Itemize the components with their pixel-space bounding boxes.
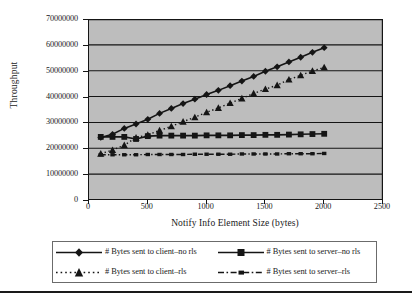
x-axis-tick-label: 500 [141, 203, 153, 211]
data-marker-triangle [179, 118, 186, 125]
plot-svg [89, 19, 383, 200]
data-marker-square [239, 132, 245, 138]
y-axis-tick-mark [83, 148, 88, 149]
legend-item-server-no-rls[interactable]: # Bytes sent to server–no rls [215, 246, 377, 259]
data-marker-diamond [286, 59, 293, 66]
data-marker-square [204, 132, 210, 138]
data-marker-square [286, 132, 292, 138]
data-marker-square [263, 132, 269, 138]
data-marker-diamond [238, 78, 245, 85]
data-marker-small-square [240, 152, 244, 155]
y-axis-tick-label: 50000000 [46, 67, 78, 75]
data-marker-small-square [228, 153, 232, 156]
x-axis-tick-label: 1500 [256, 203, 272, 211]
legend-sample-diamond-icon [56, 246, 102, 259]
legend-sample-triangle-icon [56, 266, 102, 279]
data-marker-small-square [99, 153, 103, 156]
chart-figure: Throughput 01000000020000000300000004000… [0, 0, 412, 303]
y-axis-tick-label: 70000000 [46, 15, 78, 23]
x-axis-tick-label: 2500 [374, 203, 390, 211]
data-marker-square [274, 132, 280, 138]
series-1 [98, 131, 327, 142]
y-axis-tick-mark [83, 19, 88, 20]
data-marker-square [298, 131, 304, 137]
legend-sample-dashdot-icon [218, 266, 264, 279]
legend-item-client-no-rls[interactable]: # Bytes sent to client–no rls [53, 246, 215, 259]
legend-item-client-rls[interactable]: # Bytes sent to client–rls [53, 266, 215, 279]
data-marker-diamond [262, 68, 269, 75]
data-marker-small-square [322, 152, 326, 155]
bottom-divider [0, 291, 412, 293]
series-0 [97, 44, 327, 141]
data-marker-small-square [122, 153, 126, 156]
data-marker-diamond [156, 110, 163, 117]
data-marker-small-square [110, 153, 114, 156]
x-axis-tick-mark [264, 200, 265, 204]
data-marker-small-square [310, 152, 314, 155]
chart-legend: # Bytes sent to client–no rls # Bytes se… [52, 241, 377, 283]
data-marker-small-square [181, 153, 185, 156]
x-axis-tick-label: 2000 [315, 203, 331, 211]
data-marker-diamond [180, 100, 187, 107]
data-marker-diamond [227, 82, 234, 89]
data-marker-triangle [262, 85, 269, 92]
data-marker-diamond [133, 121, 140, 128]
data-marker-diamond [250, 73, 257, 80]
data-marker-small-square [169, 153, 173, 156]
data-marker-square [121, 134, 127, 140]
data-marker-triangle [227, 99, 234, 106]
y-axis-tick-label: 40000000 [46, 92, 78, 100]
y-axis-tick-label: 10000000 [46, 170, 78, 178]
x-axis-tick-labels: 05001000150020002500 [88, 203, 382, 217]
data-marker-diamond [309, 49, 316, 56]
data-marker-small-square [287, 152, 291, 155]
x-axis-tick-label: 0 [86, 203, 90, 211]
y-axis-tick-label: 30000000 [46, 118, 78, 126]
data-marker-small-square [251, 152, 255, 155]
legend-label: # Bytes sent to client–rls [105, 268, 187, 276]
data-marker-triangle [321, 64, 328, 71]
data-marker-diamond [215, 87, 222, 94]
data-marker-small-square [298, 152, 302, 155]
data-marker-triangle [238, 95, 245, 102]
legend-label: # Bytes sent to server–no rls [267, 248, 361, 256]
data-marker-triangle [297, 72, 304, 79]
y-axis-tick-mark [83, 174, 88, 175]
y-axis-tick-labels: 0100000002000000030000000400000005000000… [0, 19, 84, 200]
data-marker-square [180, 133, 186, 139]
y-axis-tick-mark [83, 45, 88, 46]
data-marker-square [227, 132, 233, 138]
data-marker-diamond [168, 105, 175, 112]
data-marker-triangle [121, 142, 128, 149]
y-axis-tick-mark [83, 97, 88, 98]
data-marker-triangle [191, 114, 198, 121]
data-marker-small-square [263, 152, 267, 155]
data-marker-small-square [146, 153, 150, 156]
series-3 [99, 152, 327, 157]
data-marker-square [110, 134, 116, 140]
legend-sample-square-icon [218, 246, 264, 259]
data-marker-small-square [275, 152, 279, 155]
data-marker-small-square [134, 153, 138, 156]
data-marker-square [98, 134, 104, 140]
data-marker-triangle [168, 123, 175, 130]
legend-label: # Bytes sent to client–no rls [105, 248, 197, 256]
plot-area [88, 19, 382, 200]
data-marker-triangle [274, 82, 281, 89]
x-axis-tick-mark [88, 200, 89, 204]
data-marker-small-square [193, 153, 197, 156]
x-axis-tick-mark [323, 200, 324, 204]
data-marker-square [192, 133, 198, 139]
data-marker-diamond [144, 116, 151, 123]
data-marker-triangle [109, 146, 116, 153]
data-marker-square [310, 131, 316, 137]
y-axis-tick-mark [83, 122, 88, 123]
data-marker-small-square [216, 153, 220, 156]
x-axis-title: Notify Info Element Size (bytes) [88, 218, 382, 228]
data-marker-square [251, 132, 257, 138]
x-axis-tick-mark [206, 200, 207, 204]
data-marker-square [215, 132, 221, 138]
data-marker-square [157, 133, 163, 139]
data-marker-diamond [274, 63, 281, 70]
legend-item-server-rls[interactable]: # Bytes sent to server–rls [215, 266, 377, 279]
